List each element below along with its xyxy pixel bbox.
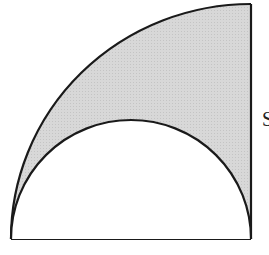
geometry-figure [0, 0, 269, 255]
side-label: S [262, 108, 269, 131]
